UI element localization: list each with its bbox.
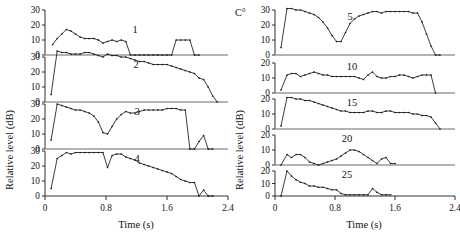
data-point xyxy=(84,152,86,154)
data-point xyxy=(88,38,90,40)
data-point xyxy=(408,112,410,114)
data-point xyxy=(372,160,374,162)
data-point xyxy=(120,153,122,155)
data-point xyxy=(102,56,104,58)
data-point xyxy=(125,56,127,58)
data-point xyxy=(180,68,182,70)
data-point xyxy=(98,121,100,123)
data-point xyxy=(304,74,306,76)
data-point xyxy=(157,54,159,56)
right-xtick-24: 2.4 xyxy=(449,203,460,213)
data-point xyxy=(381,112,383,114)
data-point xyxy=(367,194,369,196)
data-point xyxy=(354,112,356,114)
data-point xyxy=(322,74,324,76)
data-point xyxy=(291,97,293,99)
panel-15-ytick-20: 20 xyxy=(261,94,271,104)
data-point xyxy=(430,116,432,118)
data-point xyxy=(408,11,410,13)
data-point xyxy=(385,110,387,112)
data-point xyxy=(184,39,186,41)
data-point xyxy=(403,11,405,13)
data-point xyxy=(367,110,369,112)
panel-10-ytick-20: 20 xyxy=(261,58,271,68)
data-point xyxy=(304,183,306,185)
data-point xyxy=(394,112,396,114)
data-point xyxy=(349,149,351,151)
data-point xyxy=(381,194,383,196)
data-point xyxy=(354,149,356,151)
right-xtick-0: 0 xyxy=(273,203,278,213)
panel-4-label: 4 xyxy=(134,153,140,164)
data-point xyxy=(336,109,338,111)
data-point xyxy=(403,112,405,114)
data-point xyxy=(102,152,104,154)
panel-4-series xyxy=(51,153,213,197)
panel-10: 20 10 0 10 xyxy=(261,58,455,98)
data-point xyxy=(426,115,428,117)
data-point xyxy=(390,194,392,196)
right-x-axis-title: Time (s) xyxy=(346,219,382,231)
data-point xyxy=(88,152,90,154)
panel-1-ytick-30: 30 xyxy=(31,5,41,15)
panel-1-ytick-10: 10 xyxy=(31,35,41,45)
data-point xyxy=(180,179,182,181)
panel-5-markers xyxy=(280,8,441,56)
data-point xyxy=(107,53,109,55)
right-x-ticks: 0 0.8 1.6 2.4 xyxy=(273,196,460,213)
data-point xyxy=(280,89,282,91)
data-point xyxy=(212,195,214,197)
data-point xyxy=(295,9,297,11)
data-point xyxy=(50,139,52,141)
data-point xyxy=(70,30,72,32)
data-point xyxy=(345,32,347,34)
data-point xyxy=(367,157,369,159)
panel-4-markers xyxy=(50,152,213,197)
right-xtick-16: 1.6 xyxy=(389,203,401,213)
data-point xyxy=(171,65,173,67)
data-point xyxy=(372,11,374,13)
data-point xyxy=(363,14,365,16)
data-point xyxy=(189,148,191,150)
data-point xyxy=(88,52,90,54)
data-point xyxy=(79,53,81,55)
data-point xyxy=(93,115,95,117)
data-point xyxy=(134,54,136,56)
data-point xyxy=(327,74,329,76)
data-point xyxy=(180,109,182,111)
panel-1-ytick-20: 20 xyxy=(31,20,41,30)
panel-4-ytick-0: 0 xyxy=(35,191,40,201)
data-point xyxy=(207,195,209,197)
data-point xyxy=(66,52,68,54)
data-point xyxy=(189,39,191,41)
data-point xyxy=(139,61,141,63)
data-point xyxy=(300,154,302,156)
data-point xyxy=(175,39,177,41)
data-point xyxy=(171,173,173,175)
data-point xyxy=(295,98,297,100)
panel-15-y-ticks: 20 10 0 xyxy=(261,94,275,134)
data-point xyxy=(102,132,104,134)
data-point xyxy=(98,152,100,154)
panel-20-ytick-10: 10 xyxy=(261,145,271,155)
data-point xyxy=(313,71,315,73)
data-point xyxy=(331,160,333,162)
data-point xyxy=(394,11,396,13)
data-point xyxy=(412,12,414,14)
data-point xyxy=(309,73,311,75)
panel-2: 30 20 10 0 2 xyxy=(31,50,228,107)
panel-15-series xyxy=(281,98,440,130)
panel-25-label: 25 xyxy=(342,169,353,180)
data-point xyxy=(331,35,333,37)
data-point xyxy=(56,50,58,52)
panel-1-label: 1 xyxy=(132,24,137,35)
data-point xyxy=(318,103,320,105)
data-point xyxy=(107,41,109,43)
data-point xyxy=(93,152,95,154)
data-point xyxy=(358,77,360,79)
panel-3-ytick-10: 10 xyxy=(31,129,41,139)
data-point xyxy=(52,44,54,46)
data-point xyxy=(376,163,378,165)
data-point xyxy=(152,109,154,111)
data-point xyxy=(340,193,342,195)
